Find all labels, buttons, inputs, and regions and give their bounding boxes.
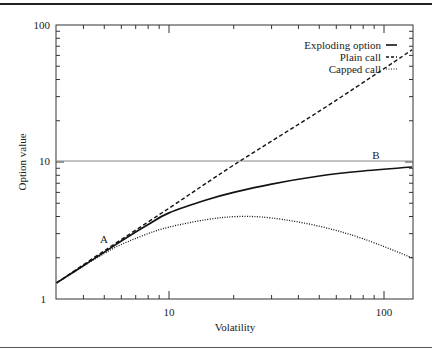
legend-label-plain: Plain call	[340, 51, 381, 63]
series-line-exploding-option	[57, 167, 412, 283]
annotation-a: A	[100, 233, 108, 245]
series-line-capped-call	[57, 216, 412, 282]
y-tick-label-100: 100	[34, 19, 51, 31]
x-tick-label-10: 10	[164, 306, 176, 318]
x-axis-label: Volatility	[215, 321, 256, 333]
y-tick-label-1: 1	[41, 293, 47, 305]
series-group	[57, 50, 412, 283]
legend-label-exploding: Exploding option	[304, 39, 381, 51]
legend: Exploding option Plain call Capped call	[304, 39, 397, 75]
legend-label-capped: Capped call	[329, 63, 381, 75]
y-tick-label-10: 10	[39, 155, 51, 167]
x-tick-label-100: 100	[376, 306, 393, 318]
y-axis-label: Option value	[16, 133, 28, 190]
chart: 100 10 1 10 100 Volatility Option value …	[0, 0, 432, 354]
annotation-b: B	[372, 149, 379, 161]
